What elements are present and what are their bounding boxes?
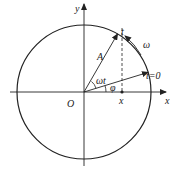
phasor-diagram: y x O A t ω t=0 ωt φ x	[0, 0, 173, 173]
projection-label: x	[118, 95, 124, 106]
diagram-canvas: y x O A t ω t=0 ωt φ x	[0, 0, 173, 173]
amplitude-label: A	[96, 51, 104, 62]
projection-point	[120, 90, 123, 93]
time-point-label: t	[121, 26, 124, 37]
angular-velocity-label: ω	[143, 39, 150, 50]
phi-arc	[105, 86, 106, 92]
y-axis-label: y	[74, 3, 80, 14]
initial-time-label: t=0	[146, 70, 161, 81]
origin-label: O	[67, 98, 74, 109]
omega-t-label: ωt	[96, 75, 106, 86]
phase-label: φ	[110, 82, 116, 93]
x-axis-label: x	[164, 95, 170, 106]
